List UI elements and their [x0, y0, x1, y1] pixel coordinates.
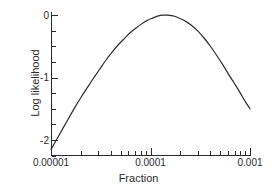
y-axis-title: Log likelihood — [30, 49, 41, 116]
x-axis-title: Fraction — [0, 173, 277, 184]
log-likelihood-curve — [51, 15, 250, 149]
log-likelihood-chart: 0-1-2 0.000010.00010.001 Fraction Log li… — [0, 0, 277, 196]
plot-area — [0, 0, 277, 196]
